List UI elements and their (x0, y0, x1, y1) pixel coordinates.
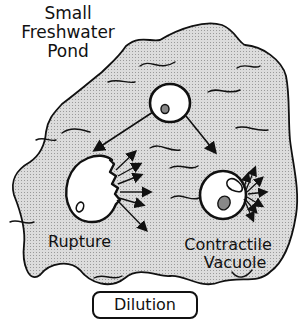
title-line-2: Freshwater (8, 23, 128, 42)
title-line-1: Small (8, 4, 128, 23)
central-cell (150, 84, 190, 122)
contractile-line-2: Vacuole (172, 254, 284, 272)
rupture-label: Rupture (48, 232, 111, 251)
contractile-line-1: Contractile (172, 236, 284, 254)
contractile-vacuole-label: Contractile Vacuole (172, 236, 284, 272)
contractile-vacuole-cell (200, 171, 246, 219)
title-line-3: Pond (8, 42, 128, 61)
diagram-title: Small Freshwater Pond (8, 4, 128, 61)
dilution-label-box: Dilution (92, 291, 198, 319)
